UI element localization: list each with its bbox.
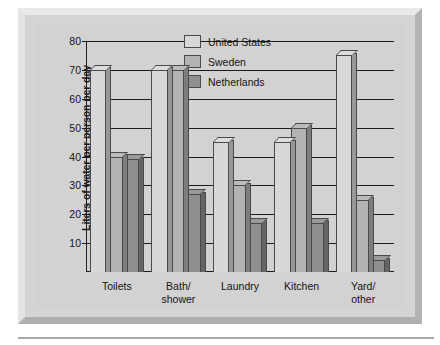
legend-item: Netherlands (184, 72, 271, 91)
bar-side (123, 154, 128, 272)
bar-side (352, 53, 357, 272)
bar-side (307, 125, 312, 272)
legend-swatch (184, 35, 201, 48)
y-tick-mark (82, 41, 87, 42)
x-axis-label-line: Toilets (102, 280, 132, 293)
y-tick-label: 10 (69, 237, 81, 249)
x-axis-label-line: other (351, 293, 375, 306)
bar (213, 137, 235, 272)
bar-side (324, 220, 329, 272)
y-tick-label: 20 (69, 208, 81, 220)
chart-frame: Liters of water per person per day 10203… (18, 8, 422, 324)
y-tick-mark (82, 243, 87, 244)
bar-side (291, 140, 296, 272)
y-tick-label: 40 (69, 151, 81, 163)
bar-side (246, 183, 251, 272)
x-axis-label: Laundry (221, 280, 259, 293)
y-tick-mark (82, 70, 87, 71)
bar-face (213, 142, 230, 272)
y-tick-label: 80 (69, 35, 81, 47)
bar-face (274, 142, 291, 272)
legend-item: Sweden (184, 52, 271, 71)
chart-screenshot: Liters of water per person per day 10203… (0, 0, 440, 345)
legend-item: United States (184, 32, 271, 51)
y-tick-label: 60 (69, 93, 81, 105)
y-tick-mark (82, 157, 87, 158)
bar-face (336, 55, 353, 272)
bottom-divider (18, 337, 434, 339)
x-axis-label-line: Bath/ (161, 280, 195, 293)
bar-face (90, 70, 107, 272)
bar (336, 50, 358, 272)
x-axis-label-line: Laundry (221, 280, 259, 293)
bar (151, 65, 173, 272)
bar-side (262, 220, 267, 272)
x-axis-label-line: Kitchen (284, 280, 319, 293)
bar-side (385, 258, 390, 272)
y-tick-mark (82, 214, 87, 215)
legend-label: United States (208, 36, 271, 48)
y-tick-label: 70 (69, 64, 81, 76)
x-axis-label-line: Yard/ (351, 280, 375, 293)
y-tick-mark (82, 99, 87, 100)
y-tick-label: 50 (69, 122, 81, 134)
x-axis-label: Toilets (102, 280, 132, 293)
bar (90, 65, 112, 272)
bar-side (229, 140, 234, 272)
x-axis-label: Yard/other (351, 280, 375, 305)
y-tick-mark (82, 128, 87, 129)
legend-label: Netherlands (208, 76, 265, 88)
bar-side (201, 192, 206, 272)
chart-frame-inner: Liters of water per person per day 10203… (25, 15, 415, 317)
bar-side (168, 67, 173, 272)
bar-side (139, 157, 144, 272)
chart-legend: United StatesSwedenNetherlands (184, 32, 271, 92)
bar-side (369, 197, 374, 272)
bar (274, 137, 296, 272)
legend-label: Sweden (208, 56, 246, 68)
x-axis-label: Bath/shower (161, 280, 195, 305)
x-axis-label-line: shower (161, 293, 195, 306)
bar-face (151, 70, 168, 272)
y-tick-mark (82, 185, 87, 186)
bar-side (184, 67, 189, 272)
y-tick-label: 30 (69, 179, 81, 191)
x-axis-label: Kitchen (284, 280, 319, 293)
bar-side (106, 67, 111, 272)
chart-panel: Liters of water per person per day 10203… (36, 25, 404, 308)
